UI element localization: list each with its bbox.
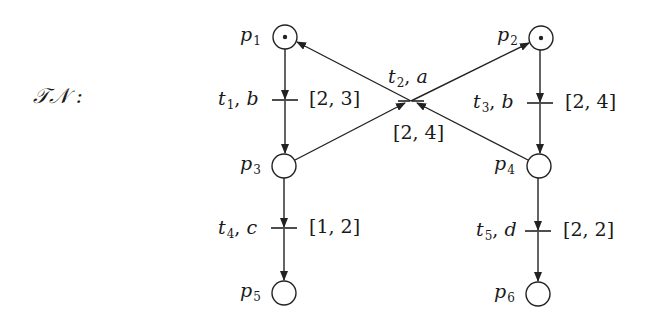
transition-label-t1: t1, b	[218, 89, 259, 111]
transition-label-t5: t5, d	[476, 220, 517, 242]
place-p6[interactable]	[526, 282, 550, 306]
net-graph	[0, 0, 645, 327]
place-p5[interactable]	[272, 281, 296, 305]
token-p1	[283, 35, 287, 39]
token-p2	[539, 36, 543, 40]
arc-p3-t2	[295, 103, 405, 160]
interval-t3: [2, 4]	[565, 92, 616, 111]
place-label-p2: p2	[497, 25, 518, 47]
place-label-p6: p6	[494, 282, 515, 304]
place-label-p5: p5	[240, 281, 261, 303]
interval-t4: [1, 2]	[309, 217, 360, 236]
transition-label-t3: t3, b	[473, 92, 514, 114]
interval-t1: [2, 3]	[309, 89, 360, 108]
transition-label-t2: t2, a	[388, 67, 428, 89]
transition-label-t4: t4, c	[218, 218, 257, 240]
place-label-p4: p4	[494, 154, 515, 176]
place-p4[interactable]	[527, 154, 551, 178]
interval-t2: [2, 4]	[393, 123, 444, 142]
place-p3[interactable]	[272, 154, 296, 178]
place-label-p3: p3	[240, 154, 261, 176]
petri-net-diagram: 𝒯𝒩 :	[0, 0, 645, 327]
place-label-p1: p1	[240, 25, 261, 47]
interval-t5: [2, 2]	[563, 220, 614, 239]
